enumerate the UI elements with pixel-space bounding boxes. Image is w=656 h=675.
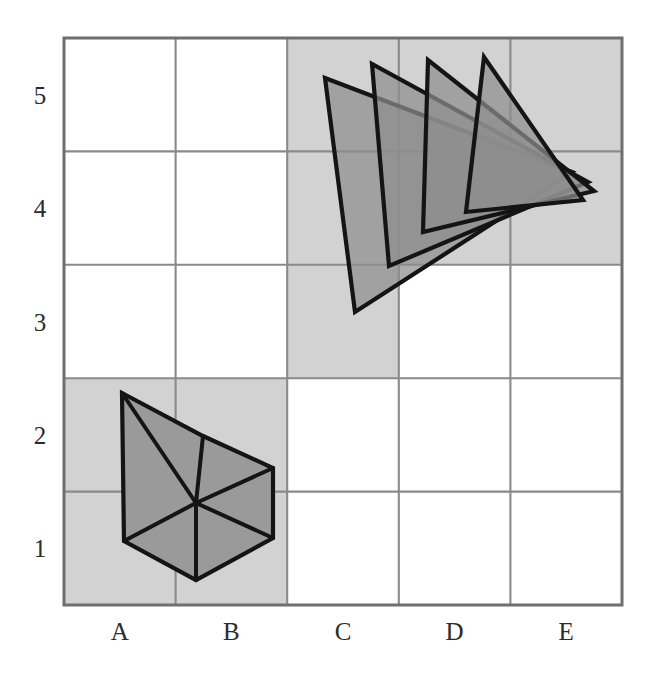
x-axis-label-d: D (446, 618, 464, 645)
x-axis-label-e: E (559, 618, 574, 645)
x-axis-label-c: C (335, 618, 352, 645)
y-axis-label-5: 5 (34, 82, 47, 109)
x-axis-label-b: B (223, 618, 240, 645)
y-axis-label-4: 4 (34, 195, 47, 222)
grid-figure: ABCDE 12345 (0, 0, 656, 675)
x-axis-label-a: A (111, 618, 129, 645)
y-axis-label-2: 2 (34, 422, 47, 449)
figure-root: ABCDE 12345 (0, 0, 656, 675)
y-axis-label-1: 1 (34, 535, 47, 562)
y-axis-label-3: 3 (34, 309, 47, 336)
